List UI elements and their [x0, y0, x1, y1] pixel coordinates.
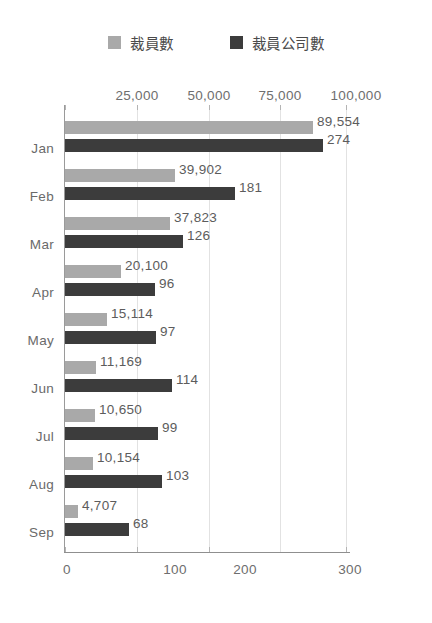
category-label-sep: Sep [29, 525, 54, 540]
bar-value-dark-jul: 99 [162, 421, 178, 434]
bar-value-dark-jan: 274 [327, 133, 350, 146]
category-label-jan: Jan [31, 141, 54, 156]
bar-value-dark-aug: 103 [166, 469, 189, 482]
legend-label-layoff-count: 裁員數 [130, 32, 174, 53]
legend-item-layoff-count[interactable]: 裁員數 [108, 32, 174, 53]
bar-dark-may[interactable] [65, 331, 156, 344]
bar-value-light-sep: 4,707 [82, 499, 117, 512]
bar-light-mar[interactable] [65, 217, 170, 230]
bar-value-light-feb: 39,902 [179, 163, 222, 176]
bar-value-light-may: 15,114 [111, 307, 153, 320]
top-axis-tick-75000: 75,000 [258, 88, 301, 103]
bar-value-dark-jun: 114 [176, 373, 198, 386]
bar-group-sep: 4,707 68 [65, 494, 347, 542]
bar-group-may: 15,114 97 [65, 302, 347, 350]
bar-dark-feb[interactable] [65, 187, 235, 200]
bar-light-apr[interactable] [65, 265, 121, 278]
top-axis-tick-50000: 50,000 [187, 88, 230, 103]
bar-group-mar: 37,823 126 [65, 206, 347, 254]
category-label-feb: Feb [30, 189, 54, 204]
bar-group-feb: 39,902 181 [65, 158, 347, 206]
bar-value-light-mar: 37,823 [174, 211, 217, 224]
bar-light-sep[interactable] [65, 505, 78, 518]
bar-dark-sep[interactable] [65, 523, 129, 536]
bar-light-jun[interactable] [65, 361, 96, 374]
bar-dark-jan[interactable] [65, 139, 323, 152]
bar-light-feb[interactable] [65, 169, 175, 182]
category-label-aug: Aug [29, 477, 54, 492]
bar-light-may[interactable] [65, 313, 107, 326]
bar-group-jul: 10,650 99 [65, 398, 347, 446]
category-label-apr: Apr [32, 285, 54, 300]
bottom-axis-tick-100: 100 [163, 562, 186, 577]
bottom-axis-tick-300: 300 [338, 562, 361, 577]
top-axis-tick-labels: 25,000 50,000 75,000 100,000 [0, 88, 432, 106]
bottom-tick-mark-100 [137, 547, 138, 552]
category-label-mar: Mar [30, 237, 54, 252]
top-axis-tick-100000: 100,000 [331, 88, 382, 103]
top-axis-tick-25000: 25,000 [115, 88, 158, 103]
plot-area: 89,554 274 39,902 181 37,823 126 20,100 … [65, 110, 347, 552]
legend-swatch-icon-dark [230, 36, 243, 49]
bar-value-dark-mar: 126 [187, 229, 210, 242]
bar-value-light-aug: 10,154 [97, 451, 140, 464]
bar-value-light-jun: 11,169 [100, 355, 142, 368]
bottom-axis-tick-200: 200 [233, 562, 256, 577]
bottom-tick-mark-300 [346, 547, 347, 552]
bar-dark-aug[interactable] [65, 475, 162, 488]
bar-value-light-jul: 10,650 [99, 403, 142, 416]
bar-value-light-apr: 20,100 [125, 259, 168, 272]
bar-chart: 裁員數 裁員公司數 25,000 50,000 75,000 100,000 8… [0, 0, 432, 623]
chart-legend: 裁員數 裁員公司數 [0, 30, 432, 54]
bar-dark-apr[interactable] [65, 283, 155, 296]
bar-group-aug: 10,154 103 [65, 446, 347, 494]
legend-label-company-count: 裁員公司數 [252, 32, 325, 53]
bar-value-dark-apr: 96 [159, 277, 175, 290]
category-label-may: May [28, 333, 54, 348]
bottom-axis-tick-0: 0 [63, 562, 71, 577]
category-axis-labels: Jan Feb Mar Apr May Jun Jul Aug Sep [0, 110, 60, 552]
bar-group-apr: 20,100 96 [65, 254, 347, 302]
bottom-tick-mark-200 [209, 547, 210, 552]
bar-value-dark-sep: 68 [133, 517, 149, 530]
bar-light-jan[interactable] [65, 121, 313, 134]
bar-dark-jul[interactable] [65, 427, 158, 440]
bar-value-light-jan: 89,554 [317, 115, 360, 128]
bar-light-aug[interactable] [65, 457, 93, 470]
legend-swatch-icon-light [108, 36, 121, 49]
bar-light-jul[interactable] [65, 409, 95, 422]
legend-item-company-count[interactable]: 裁員公司數 [230, 32, 325, 53]
bar-value-dark-feb: 181 [239, 181, 262, 194]
bar-value-dark-may: 97 [160, 325, 176, 338]
bar-group-jun: 11,169 114 [65, 350, 347, 398]
bar-group-jan: 89,554 274 [65, 110, 347, 158]
bottom-axis-tick-labels: 0 100 200 300 [0, 562, 432, 580]
x-axis-line [64, 552, 350, 553]
bar-dark-mar[interactable] [65, 235, 183, 248]
category-label-jun: Jun [31, 381, 54, 396]
bar-dark-jun[interactable] [65, 379, 172, 392]
bottom-tick-mark-0 [65, 547, 66, 552]
category-label-jul: Jul [36, 429, 54, 444]
